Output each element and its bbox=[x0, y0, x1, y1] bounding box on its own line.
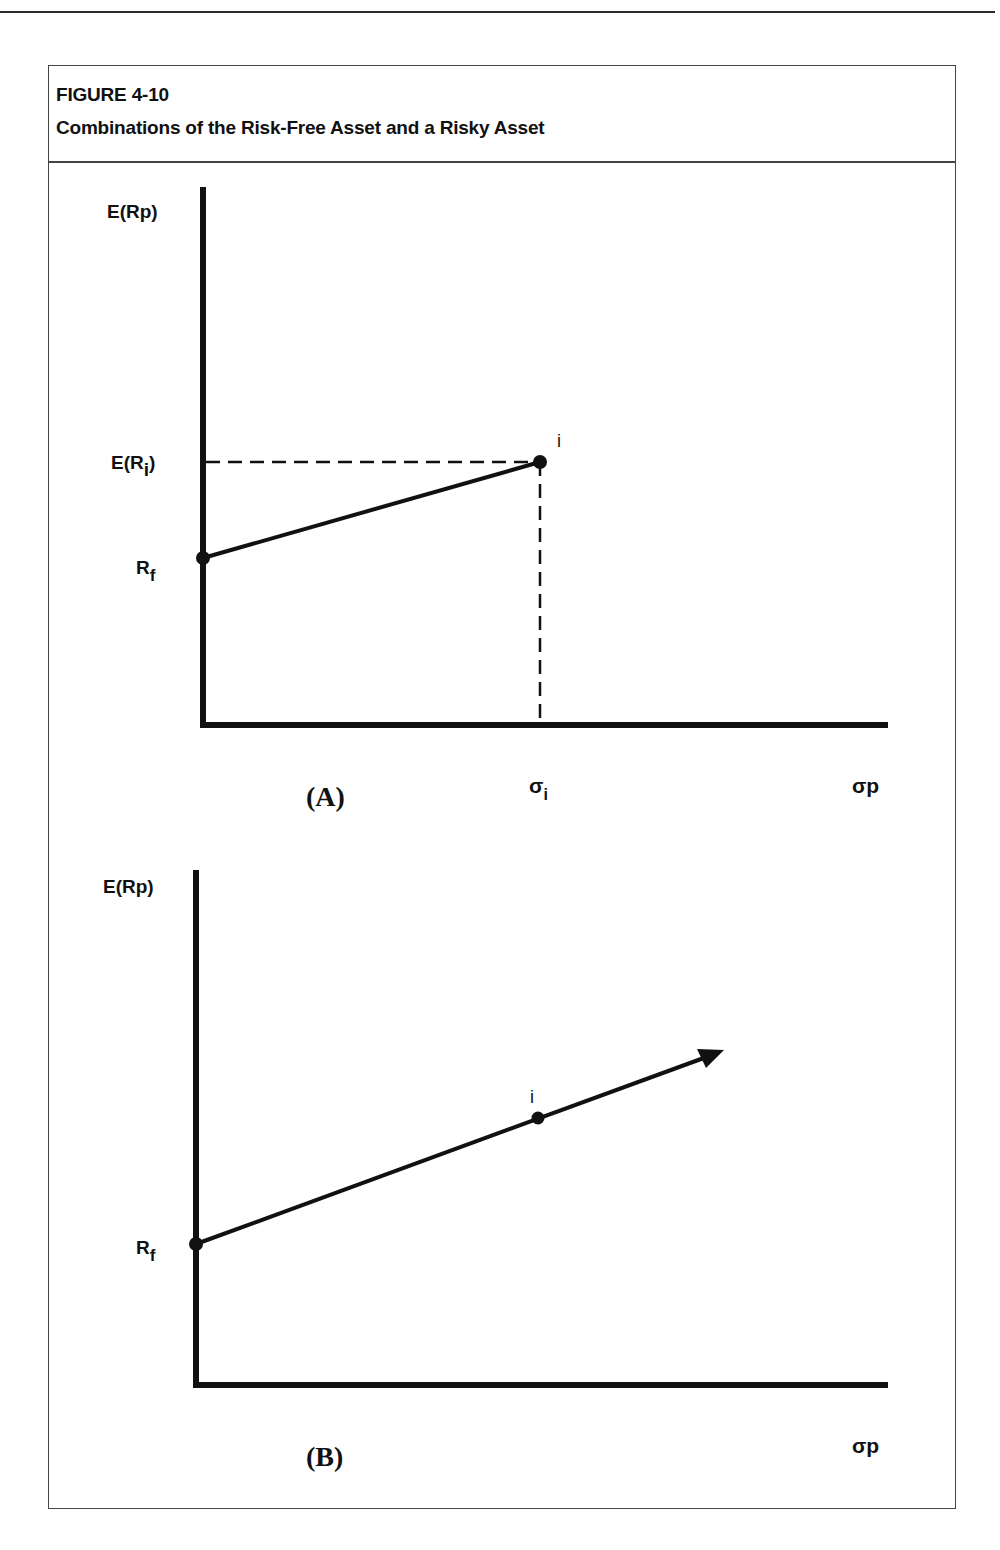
panel-b-rf-point bbox=[189, 1237, 203, 1251]
panel-a-combination-line bbox=[203, 462, 540, 558]
panel-a-rf-point bbox=[196, 551, 210, 565]
panel-a-point-i-label: i bbox=[557, 431, 561, 451]
panel-a-rf-label: Rf bbox=[136, 557, 156, 585]
panel-b: E(Rp) Rf i σp (B) bbox=[103, 870, 888, 1472]
panel-a-y-axis-label: E(Rp) bbox=[107, 201, 158, 222]
panel-b-caption: (B) bbox=[306, 1441, 343, 1472]
panel-b-point-i-label: i bbox=[530, 1087, 534, 1107]
panel-b-rf-label: Rf bbox=[136, 1237, 156, 1265]
panel-a: E(Rp) E(Ri) Rf i σi σp (A) bbox=[107, 187, 888, 812]
figure-charts: E(Rp) E(Ri) Rf i σi σp (A) E(Rp) Rf i σp… bbox=[0, 0, 1000, 1550]
panel-a-sigma-i-label: σi bbox=[529, 774, 548, 803]
panel-a-eri-label: E(Ri) bbox=[111, 452, 155, 480]
panel-a-caption: (A) bbox=[306, 781, 345, 812]
panel-a-point-i bbox=[533, 455, 547, 469]
panel-b-y-axis-label: E(Rp) bbox=[103, 876, 154, 897]
panel-b-combination-line bbox=[196, 1055, 712, 1244]
panel-b-point-i bbox=[532, 1112, 545, 1125]
panel-a-x-axis-label: σp bbox=[852, 774, 879, 797]
panel-b-x-axis-label: σp bbox=[852, 1434, 879, 1457]
